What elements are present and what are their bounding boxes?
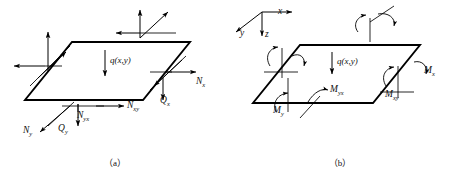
axis-label-y: y — [239, 28, 245, 38]
plate-surface-a — [25, 42, 190, 100]
coordinate-axes-b — [236, 12, 292, 36]
load-label-b: q(x,y) — [337, 56, 358, 66]
load-label-a: q(x,y) — [110, 55, 131, 65]
label-N_xy: Nxy — [126, 100, 139, 112]
label-Q_y: Qy — [58, 123, 68, 135]
label-M_x: Mx — [423, 65, 435, 77]
label-N_yx: Nyx — [76, 110, 89, 122]
axis-label-x: x — [277, 6, 283, 16]
label-N_x: Nx — [195, 76, 205, 88]
panel-b: x y z q(x,y) — [236, 6, 435, 168]
left-edge-moments-b — [264, 47, 304, 78]
label-Q_x: Qx — [160, 95, 170, 107]
plate-force-moment-figure: q(x,y) — [0, 0, 449, 176]
caption-a: （a） — [104, 158, 126, 168]
label-M_xy: Mxy — [384, 89, 399, 101]
label-N_y: Ny — [22, 125, 32, 137]
label-M_y: My — [272, 105, 284, 117]
label-M_yx: Myx — [329, 84, 344, 96]
top-edge-forces-a — [116, 10, 176, 38]
axis-label-z: z — [264, 29, 269, 39]
caption-b: （b） — [329, 158, 352, 168]
panel-a: q(x,y) — [14, 10, 205, 168]
top-edge-moments-b — [356, 6, 395, 42]
